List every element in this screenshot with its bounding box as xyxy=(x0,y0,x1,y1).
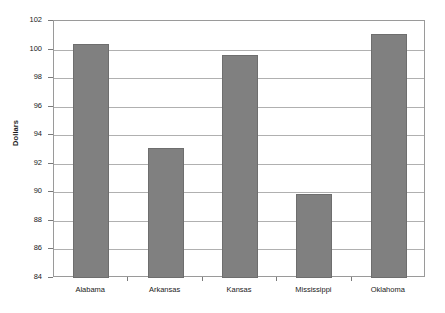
y-axis-tick-label: 90 xyxy=(0,187,42,195)
y-axis-tick-mark xyxy=(48,277,53,278)
y-axis-tick-label: 98 xyxy=(0,73,42,81)
bar xyxy=(148,148,184,278)
y-axis-tick-label: 102 xyxy=(0,16,42,24)
y-axis-tick-label: 96 xyxy=(0,102,42,110)
x-axis-tick-label: Kansas xyxy=(202,285,276,294)
x-axis-tick-mark xyxy=(351,277,352,281)
x-axis-tick-label: Alabama xyxy=(53,285,127,294)
y-axis-tick-label: 100 xyxy=(0,45,42,53)
x-axis-tick-mark xyxy=(202,277,203,281)
plot-area xyxy=(53,20,425,277)
bar-chart: Dollars 1021009896949290888684 AlabamaAr… xyxy=(0,0,445,313)
x-axis-tick-label: Mississippi xyxy=(276,285,350,294)
gridline xyxy=(54,50,424,51)
x-axis-tick-mark xyxy=(276,277,277,281)
y-axis-tick-label: 86 xyxy=(0,244,42,252)
bar xyxy=(296,194,332,278)
x-axis-tick-mark xyxy=(127,277,128,281)
y-axis-tick-label: 92 xyxy=(0,159,42,167)
x-axis-tick-label: Arkansas xyxy=(127,285,201,294)
bar xyxy=(222,55,258,278)
y-axis-tick-label: 88 xyxy=(0,216,42,224)
y-axis-tick-label: 84 xyxy=(0,273,42,281)
x-axis-tick-label: Oklahoma xyxy=(351,285,425,294)
bar xyxy=(371,34,407,278)
y-axis-tick-label: 94 xyxy=(0,130,42,138)
bar xyxy=(73,44,109,278)
